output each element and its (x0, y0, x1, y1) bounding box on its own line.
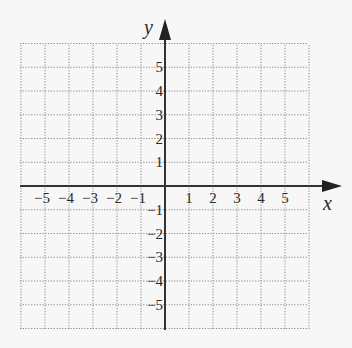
y-tick-label: −2 (147, 226, 163, 242)
y-tick-label: −4 (147, 273, 163, 289)
x-axis-arrow-icon (322, 180, 342, 192)
x-tick-label: 2 (209, 190, 217, 206)
x-tick-label: 3 (233, 190, 241, 206)
y-tick-label: 4 (156, 83, 164, 99)
y-tick-label: 2 (156, 131, 164, 147)
y-tick-label: −3 (147, 249, 163, 265)
x-tick-label: 1 (185, 190, 193, 206)
coordinate-plane: x y −5−4−3−2−112345 54321−1−2−3−4−5 (0, 0, 352, 348)
y-tick-label: 3 (156, 107, 164, 123)
x-tick-label: −5 (34, 190, 50, 206)
y-tick-label: 5 (156, 59, 164, 75)
x-tick-label: −3 (82, 190, 98, 206)
y-axis-arrow-icon (159, 19, 171, 40)
x-tick-label: −4 (58, 190, 74, 206)
x-axis-label: x (322, 192, 332, 214)
x-tick-label: 5 (281, 190, 289, 206)
y-tick-label: 1 (156, 154, 164, 170)
axes (20, 19, 342, 330)
y-tick-label: −1 (147, 202, 163, 218)
y-axis-label: y (142, 16, 153, 39)
y-tick-label: −5 (147, 297, 163, 313)
x-tick-label: −2 (106, 190, 122, 206)
x-tick-label: −1 (130, 190, 146, 206)
x-tick-label: 4 (257, 190, 265, 206)
